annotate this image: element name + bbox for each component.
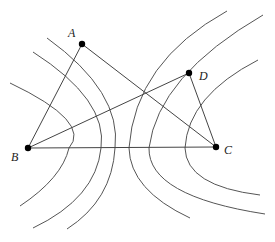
point-b <box>25 145 31 151</box>
segment-ac <box>82 44 216 147</box>
label-c: C <box>224 144 232 156</box>
curve-family <box>10 11 265 229</box>
label-a: A <box>68 27 75 39</box>
segment-dc <box>189 73 216 147</box>
label-b: B <box>11 151 18 163</box>
curve-left-1 <box>10 83 74 206</box>
vertices <box>25 41 219 151</box>
point-d <box>186 70 192 76</box>
point-a <box>79 41 85 47</box>
point-c <box>213 144 219 150</box>
segment-bc <box>28 147 216 148</box>
label-d: D <box>199 70 208 82</box>
geometry-diagram <box>0 0 275 242</box>
curve-right-2 <box>149 15 265 214</box>
curve-right-1 <box>129 11 227 218</box>
curve-right-3 <box>185 60 260 195</box>
curve-left-3 <box>47 38 116 229</box>
segment-bd <box>28 73 189 148</box>
